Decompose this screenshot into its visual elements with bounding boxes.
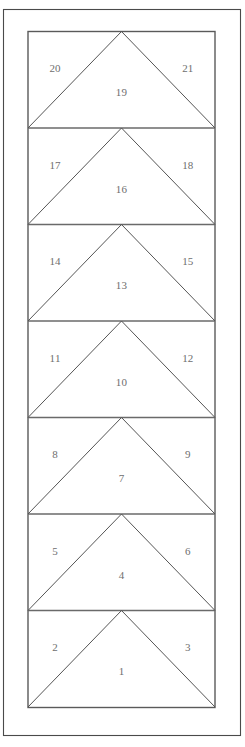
region-label-12: 12 — [182, 352, 193, 363]
triangle-left-edge-band-5 — [28, 225, 122, 322]
region-label-3: 3 — [185, 642, 191, 653]
triangle-left-edge-band-4 — [28, 321, 122, 418]
region-label-5: 5 — [52, 545, 58, 556]
triangle-left-edge-band-2 — [28, 514, 122, 611]
triangle-left-edge-band-6 — [28, 128, 122, 225]
figure-svg — [0, 0, 245, 747]
region-label-21: 21 — [182, 63, 193, 74]
region-label-7: 7 — [119, 473, 125, 484]
triangle-left-edge-band-1 — [28, 611, 122, 708]
region-label-1: 1 — [119, 666, 125, 677]
outer-frame-rect — [4, 10, 241, 736]
figure-geometry — [4, 10, 241, 736]
region-label-2: 2 — [52, 642, 58, 653]
triangle-right-edge-band-2 — [122, 514, 216, 611]
region-label-20: 20 — [49, 63, 60, 74]
region-label-16: 16 — [116, 183, 127, 194]
triangle-left-edge-band-7 — [28, 32, 122, 129]
triangle-right-edge-band-7 — [122, 32, 216, 129]
region-label-14: 14 — [49, 256, 60, 267]
triangle-right-edge-band-4 — [122, 321, 216, 418]
triangle-right-edge-band-5 — [122, 225, 216, 322]
triangle-right-edge-band-3 — [122, 418, 216, 515]
region-label-19: 19 — [116, 87, 127, 98]
region-label-11: 11 — [50, 352, 61, 363]
triangle-right-edge-band-1 — [122, 611, 216, 708]
region-label-6: 6 — [185, 545, 191, 556]
figure-container: 202119171816141513111210897564231 — [0, 0, 245, 747]
region-label-18: 18 — [182, 159, 193, 170]
region-label-8: 8 — [52, 449, 58, 460]
region-label-17: 17 — [49, 159, 60, 170]
triangle-right-edge-band-6 — [122, 128, 216, 225]
region-label-9: 9 — [185, 449, 191, 460]
region-label-4: 4 — [119, 569, 125, 580]
inner-column-rect — [28, 32, 215, 708]
triangle-left-edge-band-3 — [28, 418, 122, 515]
region-label-13: 13 — [116, 280, 127, 291]
region-label-10: 10 — [116, 376, 127, 387]
region-label-15: 15 — [182, 256, 193, 267]
